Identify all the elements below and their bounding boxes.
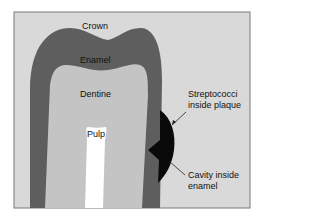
label-streptococci-line1: Streptococci (188, 89, 238, 100)
label-streptococci-line2: inside plaque (188, 100, 241, 111)
label-pulp: Pulp (87, 129, 105, 140)
label-crown: Crown (82, 21, 108, 32)
label-enamel: Enamel (80, 55, 111, 66)
label-dentine: Dentine (80, 89, 111, 100)
label-cavity-line1: Cavity inside (188, 170, 239, 181)
label-cavity-line2: enamel (188, 181, 218, 192)
